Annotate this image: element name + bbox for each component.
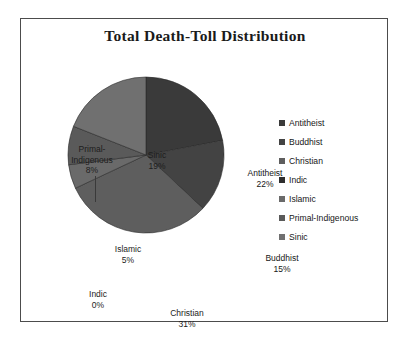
- legend-swatch-christian: [279, 158, 285, 164]
- chart-title: Total Death-Toll Distribution: [21, 27, 389, 45]
- legend-label-indic: Indic: [289, 175, 307, 185]
- slice-label-islamic-name: Islamic: [115, 244, 141, 254]
- slice-label-indic-percent: 0%: [70, 300, 126, 311]
- legend-item-primal-indigenous[interactable]: Primal-Indigenous: [279, 210, 389, 226]
- slice-label-indic: Indic 0%: [70, 289, 126, 310]
- pie-chart: Antitheist 22% Buddhist 15% Christian 31…: [67, 76, 225, 234]
- legend-item-indic[interactable]: Indic: [279, 172, 389, 188]
- legend-swatch-islamic: [279, 196, 285, 202]
- legend-label-islamic: Islamic: [289, 194, 316, 204]
- slice-label-christian-percent: 31%: [155, 319, 219, 330]
- legend-label-buddhist: Buddhist: [289, 137, 322, 147]
- legend-swatch-sinic: [279, 234, 285, 240]
- legend-label-primal-indigenous: Primal-Indigenous: [289, 213, 358, 223]
- legend-label-christian: Christian: [289, 156, 323, 166]
- slice-label-primal-indigenous-name-line1: Primal-: [79, 144, 106, 154]
- legend-item-islamic[interactable]: Islamic: [279, 191, 389, 207]
- legend-label-sinic: Sinic: [289, 232, 308, 242]
- legend-item-buddhist[interactable]: Buddhist: [279, 134, 389, 150]
- legend-item-sinic[interactable]: Sinic: [279, 229, 389, 245]
- slice-label-christian-name: Christian: [170, 308, 204, 318]
- legend-label-antitheist: Antitheist: [289, 118, 324, 128]
- slice-label-sinic: Sinic 19%: [131, 150, 183, 171]
- slice-label-christian: Christian 31%: [155, 308, 219, 329]
- slice-label-antitheist-name: Antitheist: [248, 168, 283, 178]
- slice-label-buddhist-percent: 15%: [253, 264, 311, 275]
- primal-indigenous-leader-line: [95, 176, 96, 202]
- legend-swatch-primal-indigenous: [279, 215, 285, 221]
- slice-label-sinic-percent: 19%: [131, 161, 183, 172]
- legend-item-antitheist[interactable]: Antitheist: [279, 115, 389, 131]
- slice-label-islamic-percent: 5%: [101, 255, 155, 266]
- legend-swatch-antitheist: [279, 120, 285, 126]
- scan-edge-artifact: [0, 0, 404, 16]
- slice-label-primal-indigenous: Primal- Indigenous 8%: [55, 144, 129, 176]
- slice-label-primal-indigenous-name-line2: Indigenous: [55, 155, 129, 166]
- slice-label-islamic: Islamic 5%: [101, 244, 155, 265]
- slice-label-indic-name: Indic: [89, 289, 107, 299]
- legend-swatch-indic: [279, 177, 285, 183]
- chart-legend: AntitheistBuddhistChristianIndicIslamicP…: [279, 115, 389, 248]
- legend-swatch-buddhist: [279, 139, 285, 145]
- slice-label-buddhist-name: Buddhist: [265, 253, 298, 263]
- slice-label-buddhist: Buddhist 15%: [253, 253, 311, 274]
- slice-label-primal-indigenous-percent: 8%: [55, 165, 129, 176]
- chart-frame: Total Death-Toll Distribution Antitheist…: [20, 18, 388, 322]
- slice-label-sinic-name: Sinic: [148, 150, 166, 160]
- legend-item-christian[interactable]: Christian: [279, 153, 389, 169]
